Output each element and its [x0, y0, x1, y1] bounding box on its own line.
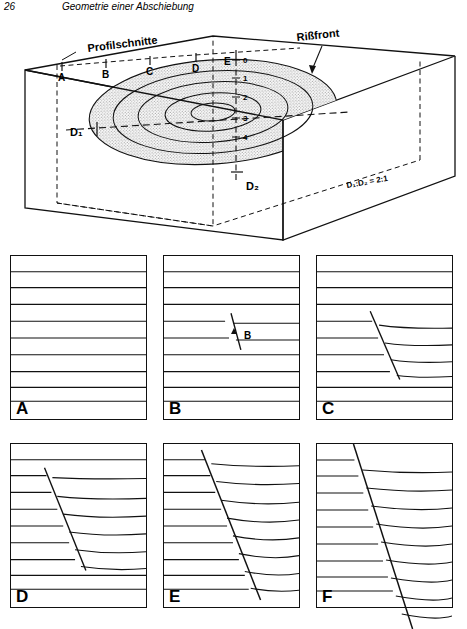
strata-lines-b: [164, 272, 299, 401]
profile-panel-d: D: [10, 443, 147, 608]
fault-line-d: [45, 468, 86, 571]
fault-tip-line-label: Rißfront: [296, 27, 340, 43]
section-marker-d: D: [192, 63, 199, 74]
section-marker-c: C: [146, 66, 153, 77]
axial-ratio-label: D₁:D₂ = 2:1: [346, 174, 389, 190]
contour-label-0: 0: [243, 56, 248, 65]
section-marker-a: A: [58, 72, 65, 83]
contour-label-3: 3: [243, 114, 248, 123]
profile-panel-b: B B: [163, 255, 300, 420]
fault-line-e: [201, 450, 260, 600]
profile-tag-d: D: [16, 588, 28, 605]
profile-tag-a: A: [16, 400, 28, 417]
profile-panel-c: C: [316, 255, 453, 420]
profile-tag-b: B: [169, 400, 181, 417]
profile-tag-c: C: [322, 400, 334, 417]
profile-tag-f: F: [322, 588, 332, 605]
block-diagram: D₁ D₂ D₁:D₂ = 2:1 0 1 2 3 4 Profilschnit…: [0, 8, 467, 246]
section-marker-b: B: [102, 69, 109, 80]
strata-lines-a: [11, 272, 146, 401]
profile-panel-e: E: [163, 443, 300, 608]
profile-inner-label-b: B: [244, 330, 251, 341]
profile-panel-a: A: [10, 255, 147, 420]
contour-label-2: 2: [243, 93, 248, 102]
section-marker-e: E: [224, 56, 231, 67]
profile-panel-f: F: [316, 443, 453, 608]
profile-traces-leader: [62, 52, 76, 60]
fault-line-c: [370, 311, 400, 379]
short-axis-label: D₂: [246, 180, 259, 192]
profile-tag-e: E: [169, 588, 180, 605]
strata-lines-c: [317, 272, 452, 401]
contour-label-4: 4: [243, 133, 248, 142]
contour-label-1: 1: [243, 74, 248, 83]
long-axis-label: D₁: [70, 126, 83, 138]
strata-lines-d: [11, 460, 146, 589]
